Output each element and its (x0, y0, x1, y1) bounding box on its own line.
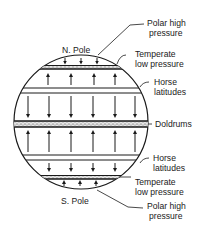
horse-latitudes-north-label: Horse latitudes (154, 77, 186, 97)
south-pole-label: S. Pole (61, 196, 89, 206)
polar-high-north-label: Polar high pressure (147, 18, 186, 38)
temperate-low-south-label: Temperate low pressure (135, 177, 184, 197)
doldrums-band (10, 121, 160, 127)
polar-high-south-label: Polar high pressure (147, 201, 186, 221)
doldrums-label: Doldrums (155, 119, 192, 129)
north-pole-label: N. Pole (62, 45, 90, 55)
temperate-low-north-label: Temperate low pressure (135, 49, 184, 69)
horse-latitudes-south-label: Horse latitudes (153, 153, 185, 173)
